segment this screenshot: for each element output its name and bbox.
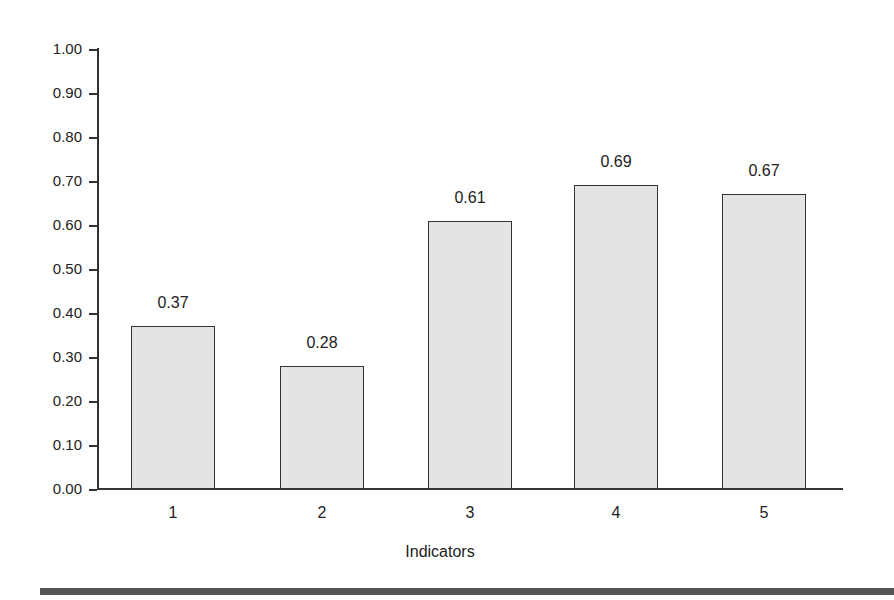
y-tick-label: 0.70 [2,172,82,189]
bar-value-label: 0.37 [130,294,216,312]
bar-5 [722,194,806,489]
y-tick-mark [89,225,97,227]
bar-value-label: 0.69 [573,153,659,171]
y-tick-mark [89,313,97,315]
bar-2 [280,366,364,489]
y-tick-mark [89,489,97,491]
y-tick-label: 0.50 [2,260,82,277]
y-tick-label: 0.90 [2,84,82,101]
y-tick-label: 0.20 [2,392,82,409]
y-tick-mark [89,357,97,359]
y-tick-label: 0.10 [2,436,82,453]
bar-3 [428,221,512,489]
bar-chart: 0.000.100.200.300.400.500.600.700.800.90… [0,0,894,600]
y-axis [97,48,99,490]
y-tick-label: 0.40 [2,304,82,321]
bar-1 [131,326,215,489]
x-tick-label: 3 [427,504,513,522]
y-tick-label: 0.60 [2,216,82,233]
bar-value-label: 0.67 [721,162,807,180]
y-tick-mark [89,269,97,271]
bottom-rule [40,588,894,595]
y-tick-label: 0.80 [2,128,82,145]
bar-4 [574,185,658,489]
x-tick-label: 5 [721,504,807,522]
y-tick-label: 0.30 [2,348,82,365]
x-tick-label: 4 [573,504,659,522]
y-tick-mark [89,93,97,95]
y-tick-mark [89,445,97,447]
x-tick-label: 1 [130,504,216,522]
y-tick-label: 0.00 [2,480,82,497]
bar-value-label: 0.61 [427,189,513,207]
y-tick-mark [89,49,97,51]
y-tick-label: 1.00 [2,40,82,57]
x-tick-label: 2 [279,504,365,522]
bar-value-label: 0.28 [279,334,365,352]
y-tick-mark [89,137,97,139]
y-tick-mark [89,401,97,403]
y-tick-mark [89,181,97,183]
x-axis-label: Indicators [380,543,500,561]
